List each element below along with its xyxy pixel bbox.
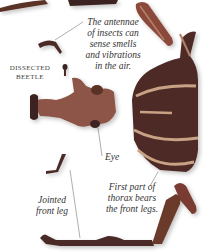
- label-thorax-line-1: First part of: [100, 182, 164, 193]
- label-antennae-line-1: The antennae: [78, 17, 148, 28]
- figure-title: DISSECTED BEETLE: [6, 64, 54, 82]
- label-leg: Jointed front leg: [34, 195, 70, 217]
- label-thorax-line-3: the front legs.: [100, 204, 164, 215]
- label-antennae-line-3: sense smells: [78, 39, 148, 50]
- beetle-head: [30, 78, 116, 128]
- leg-segment-mid-left: [46, 154, 66, 174]
- label-antennae-line-4: and vibrations: [78, 50, 148, 61]
- figure-title-line-1: DISSECTED: [6, 64, 54, 73]
- label-antennae-line-5: in the air.: [78, 61, 148, 72]
- label-thorax: First part of thorax bears the front leg…: [100, 182, 164, 215]
- label-antennae-line-2: of insects can: [78, 28, 148, 39]
- label-leg-line-2: front leg: [34, 206, 70, 217]
- pointer-line-leg: [70, 170, 80, 238]
- label-leg-line-1: Jointed: [34, 195, 70, 206]
- label-thorax-line-2: thorax bears: [100, 193, 164, 204]
- small-segment: [63, 64, 68, 76]
- leg-segment-top-left: [0, 0, 118, 12]
- figure-title-line-2: BEETLE: [6, 73, 54, 82]
- label-eye: Eye: [102, 152, 122, 163]
- antenna: [38, 40, 62, 54]
- label-antennae: The antennae of insects can sense smells…: [78, 17, 148, 72]
